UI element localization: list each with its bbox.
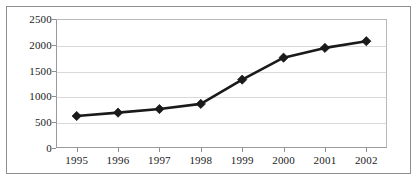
xtick-mark-1995	[77, 148, 78, 152]
xtick-mark-2001	[325, 148, 326, 152]
chart-area: 2500 2000 1500 1000 500 0 1995 1996 1997…	[0, 0, 417, 191]
ytick-label-0: 0	[6, 143, 52, 154]
xtick-mark-1996	[118, 148, 119, 152]
ytick-label-1500: 1500	[6, 66, 52, 77]
xtick-mark-1997	[159, 148, 160, 152]
data-point-2002	[362, 37, 371, 46]
xtick-label-1997: 1997	[137, 155, 181, 166]
xtick-label-1995: 1995	[55, 155, 99, 166]
xtick-label-2000: 2000	[262, 155, 306, 166]
xtick-mark-2002	[366, 148, 367, 152]
ytick-label-2500: 2500	[6, 14, 52, 25]
data-point-1996	[113, 108, 122, 117]
xtick-label-2001: 2001	[303, 155, 347, 166]
ytick-mark-0	[52, 148, 56, 149]
ytick-label-1000: 1000	[6, 91, 52, 102]
xtick-label-1999: 1999	[220, 155, 264, 166]
series-line	[77, 41, 367, 116]
xtick-mark-1999	[242, 148, 243, 152]
ytick-label-2000: 2000	[6, 40, 52, 51]
data-point-1997	[155, 104, 164, 113]
data-series	[56, 19, 387, 148]
xtick-label-2002: 2002	[344, 155, 388, 166]
data-point-2001	[320, 43, 329, 52]
series-markers	[72, 37, 371, 121]
chart-figure: 2500 2000 1500 1000 500 0 1995 1996 1997…	[0, 0, 417, 191]
ytick-label-500: 500	[6, 117, 52, 128]
y-axis-labels: 2500 2000 1500 1000 500 0	[4, 0, 52, 191]
data-point-1995	[72, 111, 81, 120]
data-point-2000	[279, 53, 288, 62]
xtick-mark-2000	[284, 148, 285, 152]
xtick-mark-1998	[201, 148, 202, 152]
xtick-label-1998: 1998	[179, 155, 223, 166]
xtick-label-1996: 1996	[96, 155, 140, 166]
